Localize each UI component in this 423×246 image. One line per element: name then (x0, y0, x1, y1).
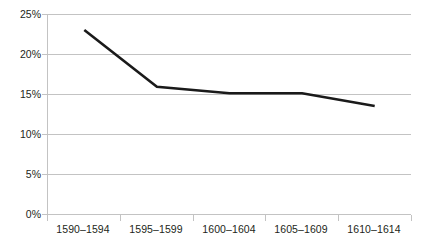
x-axis-tick-label: 1595–1599 (119, 224, 193, 235)
x-axis-tick-label: 1590–1594 (46, 224, 120, 235)
series-line-layer (0, 0, 423, 246)
x-axis-tick-label: 1600–1604 (192, 224, 266, 235)
x-axis-tick-label: 1610–1614 (337, 224, 411, 235)
series-line (84, 30, 374, 106)
line-chart: 25% 20% 15% 10% 5% 0% 1590–1594 1595–159… (0, 0, 423, 246)
x-axis-tick-label: 1605–1609 (264, 224, 338, 235)
